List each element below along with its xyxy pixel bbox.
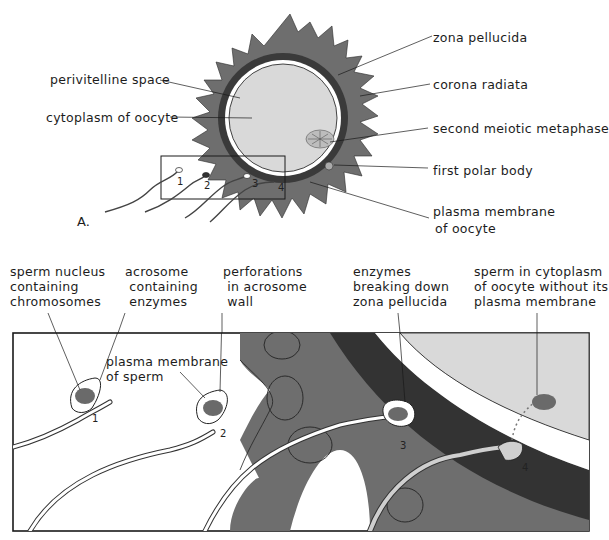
label-plasma-membrane-of-sperm: plasma membrane of sperm: [106, 354, 228, 384]
stage-number-1: 1: [92, 413, 98, 424]
label-cytoplasm-of-oocyte: cytoplasm of oocyte: [46, 110, 178, 125]
label-second-meiotic-metaphase: second meiotic metaphase: [433, 121, 609, 136]
label-sperm-nucleus: sperm nucleus containing chromosomes: [10, 264, 105, 309]
label-acrosome: acrosome containing enzymes: [125, 264, 198, 309]
label-sperm-in-cytoplasm: sperm in cytoplasm of oocyte without its…: [474, 264, 608, 309]
overview-sperm-number-4: 4: [278, 182, 284, 193]
first-polar-body: [325, 162, 333, 170]
panel-a-letter: A.: [77, 214, 90, 229]
label-perforations: perforations in acrosome wall: [223, 264, 307, 309]
label-plasma-membrane-of-oocyte: plasma membrane: [433, 204, 555, 219]
stage-number-3: 3: [400, 440, 406, 451]
overview-sperm-number-2: 2: [204, 180, 210, 191]
label-perivitelline-space: perivitelline space: [50, 72, 170, 87]
overview-sperm-number-1: 1: [177, 176, 183, 187]
stage-number-4: 4: [522, 462, 528, 473]
label-enzymes-breaking-down: enzymes breaking down zona pellucida: [353, 264, 449, 309]
label-plasma-membrane-of-oocyte-line2: of oocyte: [435, 221, 496, 236]
overview-sperm-number-3: 3: [252, 178, 258, 189]
label-corona-radiata: corona radiata: [433, 77, 528, 92]
label-first-polar-body: first polar body: [433, 163, 533, 178]
label-zona-pellucida: zona pellucida: [433, 30, 527, 45]
metaphase-spindle: [306, 130, 334, 148]
stage-number-2: 2: [220, 428, 226, 439]
